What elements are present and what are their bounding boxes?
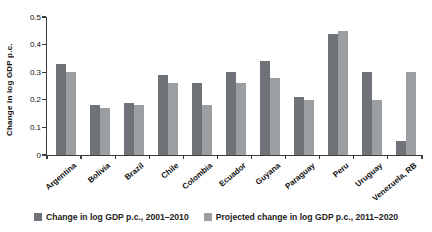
bar-2011-2020 <box>100 108 110 155</box>
legend-swatch <box>34 213 42 221</box>
y-tick-label: 0.5 <box>17 13 41 22</box>
bar-2011-2020 <box>168 83 178 155</box>
x-axis-label: Brazil <box>124 161 146 182</box>
x-axis-label: Argentina <box>43 161 77 192</box>
x-axis-label: Ecuador <box>218 161 248 188</box>
bar-2001-2010 <box>56 64 66 155</box>
bar-2011-2020 <box>372 100 382 155</box>
y-tick-label: 0.2 <box>17 95 41 104</box>
x-tick-mark <box>80 155 81 159</box>
x-tick-mark <box>115 155 116 159</box>
bar-2011-2020 <box>202 105 212 155</box>
bar-2001-2010 <box>124 103 134 155</box>
bar-2011-2020 <box>304 100 314 155</box>
bar-2001-2010 <box>396 141 406 155</box>
x-axis-label: Bolivia <box>86 161 112 185</box>
x-axis-label: Paraguay <box>283 161 316 191</box>
x-tick-mark <box>387 155 388 159</box>
bar-2001-2010 <box>260 61 270 155</box>
x-axis-label: Peru <box>331 161 350 179</box>
bar-2001-2010 <box>90 105 100 155</box>
legend-item: Change in log GDP p.c., 2001–2010 <box>34 212 189 222</box>
x-axis-label: Guyana <box>254 161 282 187</box>
x-tick-mark <box>46 155 47 159</box>
legend: Change in log GDP p.c., 2001–2010Project… <box>0 209 432 225</box>
legend-label: Change in log GDP p.c., 2001–2010 <box>46 212 189 222</box>
x-tick-mark <box>149 155 150 159</box>
bar-2011-2020 <box>338 31 348 155</box>
y-tick-mark <box>42 127 46 128</box>
y-tick-label: 0 <box>17 151 41 160</box>
y-tick-mark <box>42 16 46 17</box>
legend-item: Projected change in log GDP p.c., 2011–2… <box>204 212 398 222</box>
y-tick-mark <box>42 99 46 100</box>
bar-2011-2020 <box>134 105 144 155</box>
bar-2011-2020 <box>66 72 76 155</box>
x-tick-mark <box>319 155 320 159</box>
x-tick-mark <box>183 155 184 159</box>
y-tick-mark <box>42 154 46 155</box>
bar-2001-2010 <box>158 75 168 155</box>
x-axis-label: Uruguay <box>354 161 385 189</box>
x-tick-mark <box>285 155 286 159</box>
legend-label: Projected change in log GDP p.c., 2011–2… <box>216 212 398 222</box>
legend-swatch <box>204 213 212 221</box>
bar-2001-2010 <box>226 72 236 155</box>
bar-2011-2020 <box>406 72 416 155</box>
bar-chart-figure: Change in log GDP p.c. 00.10.20.30.40.5A… <box>0 0 432 232</box>
x-axis-label: Chile <box>159 161 180 180</box>
x-tick-mark <box>421 155 422 159</box>
x-axis-label: Colombia <box>180 161 214 191</box>
bar-2001-2010 <box>294 97 304 155</box>
y-tick-label: 0.4 <box>17 40 41 49</box>
y-tick-label: 0.1 <box>17 123 41 132</box>
y-tick-mark <box>42 44 46 45</box>
y-axis-title: Change in log GDP p.c. <box>5 22 14 158</box>
plot-area: 00.10.20.30.40.5ArgentinaBoliviaBrazilCh… <box>46 17 422 156</box>
bar-2001-2010 <box>362 72 372 155</box>
x-tick-mark <box>217 155 218 159</box>
bar-2011-2020 <box>236 83 246 155</box>
x-tick-mark <box>353 155 354 159</box>
y-tick-mark <box>42 72 46 73</box>
y-tick-label: 0.3 <box>17 68 41 77</box>
bar-2001-2010 <box>328 34 338 155</box>
bar-2001-2010 <box>192 83 202 155</box>
x-tick-mark <box>251 155 252 159</box>
bar-2011-2020 <box>270 78 280 155</box>
